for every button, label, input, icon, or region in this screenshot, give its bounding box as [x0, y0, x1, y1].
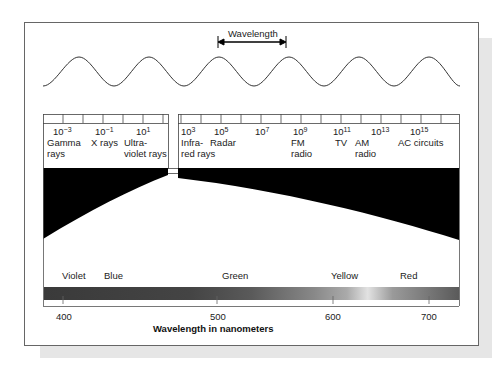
- gap-connector: [168, 169, 178, 174]
- nm-700: 700: [421, 311, 437, 322]
- diagram-graphics: [0, 0, 492, 365]
- scale-label-am: 1013AMradio: [355, 126, 389, 159]
- color-violet: Violet: [62, 270, 86, 281]
- sine-wave: [43, 57, 460, 86]
- visible-light-funnel-right: [178, 168, 459, 240]
- scale-label-radar: 105Radar: [210, 126, 236, 148]
- color-green: Green: [222, 270, 248, 281]
- scale-label-uv: 101Ultra-violet rays: [124, 126, 167, 159]
- scale-label-tv: 1011TV: [333, 126, 351, 148]
- scale-label-ac: 1015AC circuits: [398, 126, 443, 148]
- color-yellow: Yellow: [331, 270, 358, 281]
- scale-label-gamma: 10−3Gammarays: [47, 126, 81, 159]
- visible-light-funnel: [43, 168, 168, 239]
- scale-label-fm: 109FMradio: [291, 126, 312, 159]
- scale-label-1e7: 107: [255, 126, 269, 137]
- nm-500: 500: [210, 311, 226, 322]
- scale-label-xray: 10−1X rays: [91, 126, 118, 148]
- color-red: Red: [400, 270, 417, 281]
- axis-title: Wavelength in nanometers: [153, 323, 274, 334]
- nm-400: 400: [56, 311, 72, 322]
- nm-600: 600: [325, 311, 341, 322]
- color-blue: Blue: [104, 270, 123, 281]
- visible-spectrum-bar: [44, 287, 459, 300]
- wavelength-label: Wavelength: [228, 28, 278, 39]
